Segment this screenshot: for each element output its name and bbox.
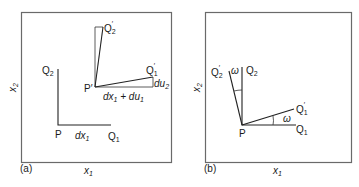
panel-b-y-axis-label: x2 (191, 83, 203, 93)
panel-a-point-Q1-prime: Q1′ (146, 62, 158, 77)
panel-b-point-Q1: Q1 (296, 124, 308, 136)
panel-a: x2 x1 (a) P Q1 Q2 dx1 P′ Q2′ Q1′ du2 dx1… (7, 13, 172, 178)
panel-a-point-Q2-prime: Q2′ (104, 20, 116, 35)
panel-b-label-omega-right: ω (283, 113, 291, 124)
panel-b: x2 x1 (b) P Q1 Q2 Q1′ Q2′ ω ω (191, 13, 352, 178)
panel-a-y-axis-label: x2 (7, 83, 19, 93)
panel-b-point-Q2-prime: Q2′ (211, 64, 223, 79)
panel-b-angle-arc-right (273, 116, 274, 125)
panel-b-line-P-Q2-prime (229, 71, 242, 125)
panel-a-line-P-Q2-prime (95, 27, 103, 87)
panel-a-point-P: P (55, 129, 62, 140)
panel-b-x-axis-label: x1 (272, 165, 282, 177)
panel-b-angle-arc-top (234, 90, 242, 91)
panel-b-label-omega-top: ω (231, 65, 239, 76)
panel-a-line-P-Q1-prime (95, 77, 153, 87)
panel-b-point-Q1-prime: Q1′ (296, 101, 308, 116)
panel-a-label-du2: du2 (154, 78, 169, 90)
panel-a-x-axis-label: x1 (83, 165, 93, 177)
panel-b-frame (206, 13, 352, 163)
panel-a-point-P-prime: P′ (84, 83, 93, 94)
panel-a-point-Q1: Q1 (108, 131, 120, 143)
panel-a-point-Q2: Q2 (42, 65, 54, 77)
panel-b-tag: (b) (204, 163, 216, 174)
panel-b-point-Q2: Q2 (246, 65, 258, 77)
panel-a-label-dx1: dx1 (75, 130, 90, 142)
panel-a-frame (22, 13, 172, 163)
strain-rotation-figure: x2 x1 (a) P Q1 Q2 dx1 P′ Q2′ Q1′ du2 dx1… (0, 0, 359, 187)
panel-b-point-P: P (239, 128, 246, 139)
panel-a-tag: (a) (20, 163, 32, 174)
panel-a-label-dx1-plus-du1: dx1 + du1 (103, 91, 144, 103)
